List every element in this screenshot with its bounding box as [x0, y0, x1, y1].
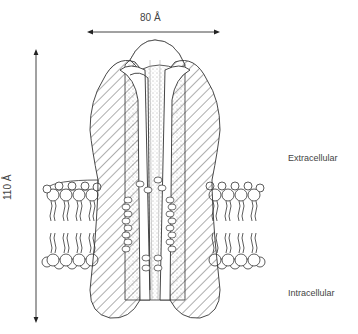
width-label: 80 Å [140, 12, 161, 23]
protein-subunit-right [160, 60, 220, 318]
ion-channel-diagram [0, 0, 358, 334]
intracellular-label: Intracellular [288, 288, 335, 298]
lipid-bilayer-left [42, 180, 101, 269]
extracellular-label: Extracellular [288, 153, 338, 163]
height-label: 110 Å [2, 175, 13, 200]
protein-subunit-left [90, 60, 150, 318]
